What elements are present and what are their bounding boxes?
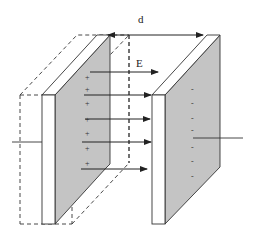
- left-plate: + + + + + + +: [42, 35, 110, 224]
- svg-text:-: -: [191, 143, 194, 152]
- svg-text:-: -: [191, 85, 194, 94]
- svg-text:-: -: [191, 157, 194, 166]
- svg-text:-: -: [191, 114, 194, 123]
- svg-text:+: +: [85, 85, 90, 94]
- right-plate-front: [152, 95, 165, 224]
- svg-text:+: +: [85, 159, 90, 168]
- svg-text:+: +: [85, 99, 90, 108]
- svg-text:+: +: [85, 129, 90, 138]
- svg-text:+: +: [85, 73, 90, 82]
- svg-text:-: -: [191, 126, 194, 135]
- field-label: E: [136, 57, 143, 69]
- svg-text:-: -: [191, 99, 194, 108]
- svg-text:+: +: [85, 144, 90, 153]
- distance-label: d: [138, 13, 144, 25]
- capacitor-diagram: + + + + + + + - - - - - - - d E: [0, 0, 253, 238]
- svg-text:-: -: [191, 172, 194, 181]
- left-plate-front: [42, 95, 55, 224]
- right-plate: - - - - - - -: [152, 35, 220, 224]
